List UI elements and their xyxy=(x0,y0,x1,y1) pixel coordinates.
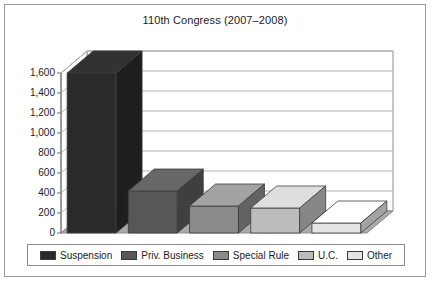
legend-item[interactable]: Special Rule xyxy=(213,250,289,261)
y-tick-label: 1,600 xyxy=(11,68,55,78)
y-tick-label: 400 xyxy=(11,188,55,198)
legend-swatch-icon xyxy=(298,251,314,260)
chart-title: 110th Congress (2007–2008) xyxy=(5,14,425,26)
legend-item[interactable]: U.C. xyxy=(298,250,338,261)
legend-label: Other xyxy=(367,250,392,261)
legend-label: Suspension xyxy=(60,250,112,261)
legend-item[interactable]: Suspension xyxy=(40,250,112,261)
y-tick-label: 1,400 xyxy=(11,88,55,98)
legend-swatch-icon xyxy=(213,251,229,260)
y-tick-label: 200 xyxy=(11,208,55,218)
legend-item[interactable]: Priv. Business xyxy=(121,250,204,261)
y-tick-label: 800 xyxy=(11,148,55,158)
legend-label: Priv. Business xyxy=(141,250,204,261)
plot-area xyxy=(27,35,405,235)
legend-swatch-icon xyxy=(121,251,137,260)
y-tick-label: 1,200 xyxy=(11,108,55,118)
legend-swatch-icon xyxy=(40,251,56,260)
legend-item[interactable]: Other xyxy=(347,250,392,261)
y-tick-label: 1,000 xyxy=(11,128,55,138)
legend-label: U.C. xyxy=(318,250,338,261)
y-tick-label: 600 xyxy=(11,168,55,178)
chart-legend: SuspensionPriv. BusinessSpecial RuleU.C.… xyxy=(27,244,405,266)
legend-swatch-icon xyxy=(347,251,363,260)
chart-frame: 110th Congress (2007–2008) 0200400600800… xyxy=(4,4,426,277)
chart-svg xyxy=(27,35,405,235)
y-tick-label: 0 xyxy=(11,228,55,238)
legend-label: Special Rule xyxy=(233,250,289,261)
